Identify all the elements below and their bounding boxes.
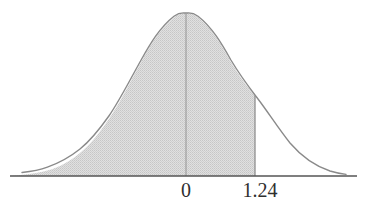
shaded-area-region	[10, 13, 255, 176]
normal-curve-figure: 0 1.24	[0, 0, 380, 216]
axis-label-mean: 0	[156, 180, 216, 200]
axis-label-zscore: 1.24	[222, 180, 298, 200]
shaded-area-path	[10, 13, 255, 176]
